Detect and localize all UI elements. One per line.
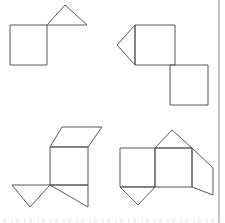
left-triangle-shape xyxy=(117,25,135,65)
geometric-nets-figure xyxy=(0,0,225,223)
left-square-shape xyxy=(120,148,155,187)
top-triangle-shape xyxy=(155,130,192,148)
bottom-triangle-shape xyxy=(120,187,155,205)
figure-top-left xyxy=(10,5,87,65)
figure-bottom-right xyxy=(120,130,213,205)
diagram-page xyxy=(0,0,225,223)
square-shape xyxy=(50,147,88,185)
square-shape xyxy=(10,25,47,65)
upper-square-shape xyxy=(135,25,175,65)
right-square-shape xyxy=(155,148,192,187)
top-parallelogram-shape xyxy=(50,127,102,147)
figure-top-right xyxy=(117,25,208,105)
right-parallelogram-shape xyxy=(192,148,213,195)
lower-square-shape xyxy=(170,65,208,105)
left-triangle-shape xyxy=(12,185,50,207)
figure-bottom-left xyxy=(12,127,102,207)
triangle-shape xyxy=(47,5,87,25)
page-bottom-text-smudge xyxy=(0,218,219,223)
right-triangle-shape xyxy=(50,185,88,207)
